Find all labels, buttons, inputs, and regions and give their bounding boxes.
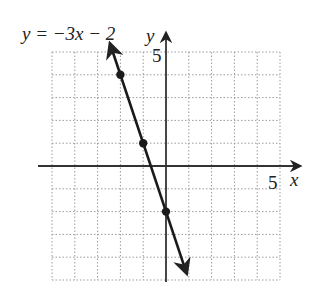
chart-svg: y = −3x − 2 y 5 5 x [0, 0, 318, 295]
data-point [162, 207, 170, 215]
data-points [116, 71, 170, 216]
equation-label: y = −3x − 2 [20, 23, 116, 44]
y-tick-label: 5 [152, 45, 162, 66]
axes [38, 33, 300, 282]
data-point [139, 139, 147, 147]
y-axis-label: y [144, 25, 155, 46]
x-tick-label: 5 [268, 172, 278, 193]
x-axis-label: x [289, 169, 299, 190]
data-point [116, 71, 124, 79]
